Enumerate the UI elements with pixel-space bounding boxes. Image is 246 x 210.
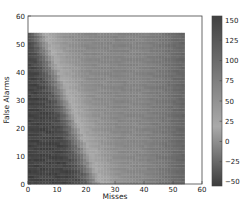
colorbar-tick-label: −50 [225,178,240,186]
colorbar-tick-label: 75 [225,77,234,85]
y-tick-label: 10 [16,153,25,161]
x-tick-label: 10 [53,186,62,194]
x-tick-label: 20 [82,186,91,194]
colorbar-tick-label: 100 [225,57,238,65]
colorbar-ticks: −50−250255075100125150 [220,17,240,187]
heatmap-cells [28,33,185,185]
colorbar-tick-label: 150 [225,17,238,25]
x-axis-label: Misses [103,192,128,201]
y-tick-label: 60 [16,13,25,21]
y-tick-label: 40 [16,69,25,77]
colorbar-tick-label: 0 [225,138,229,146]
y-tick-label: 50 [16,41,25,49]
x-tick-label: 50 [169,186,178,194]
colorbar-tick-label: −25 [225,158,240,166]
heatmap-chart: 0102030405060 0102030405060 Misses False… [0,0,246,210]
y-axis-label: False Alarms [2,76,11,123]
colorbar-tick-label: 25 [225,118,234,126]
x-tick-label: 60 [198,186,207,194]
colorbar-tick-label: 50 [225,98,234,106]
y-tick-label: 30 [16,97,25,105]
x-tick-label: 40 [140,186,149,194]
y-tick-label: 20 [16,125,25,133]
colorbar-tick-label: 125 [225,37,238,45]
x-tick-label: 0 [26,186,30,194]
y-tick-label: 0 [21,181,25,189]
